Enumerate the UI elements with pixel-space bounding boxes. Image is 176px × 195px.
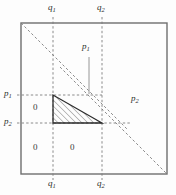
diagram-canvas — [0, 0, 176, 195]
label-p1-left: p1 — [4, 89, 12, 98]
label-q2-bottom: q2 — [97, 179, 105, 188]
label-q2-top: q2 — [97, 3, 105, 12]
label-p2-right: p2 — [131, 94, 139, 103]
square-frame — [21, 23, 167, 174]
zero-label-center-lower: 0 — [70, 143, 75, 152]
hatched-triangle — [53, 95, 102, 123]
label-q1-bottom: q1 — [48, 179, 56, 188]
label-p1-inner: p1 — [82, 42, 90, 51]
zero-label-left-lower: 0 — [33, 143, 38, 152]
label-p2-left: p2 — [4, 117, 12, 126]
label-q1-top: q1 — [48, 3, 56, 12]
geometric-diagram: q1 q2 q1 q2 p1 p2 p1 p2 0 0 0 — [0, 0, 176, 195]
zero-label-left-upper: 0 — [33, 103, 38, 112]
